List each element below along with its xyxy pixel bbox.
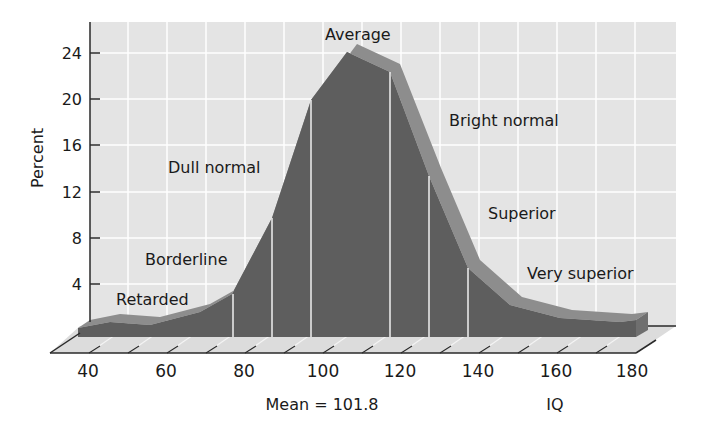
x-tick-label: 140 bbox=[462, 361, 494, 381]
category-label-borderline: Borderline bbox=[145, 250, 228, 269]
y-tick-label: 12 bbox=[62, 183, 82, 202]
x-tick-label: 180 bbox=[616, 361, 648, 381]
iq-distribution-chart: 24 20 16 12 8 4 Percent 40 60 80 100 120… bbox=[0, 0, 705, 440]
category-label-dull-normal: Dull normal bbox=[168, 158, 261, 177]
category-label-average: Average bbox=[325, 25, 391, 44]
mean-annotation: Mean = 101.8 bbox=[266, 395, 379, 414]
category-label-bright-normal: Bright normal bbox=[449, 111, 559, 130]
x-tick-label: 120 bbox=[384, 361, 416, 381]
x-tick-label: 60 bbox=[155, 361, 177, 381]
category-label-very-superior: Very superior bbox=[527, 264, 634, 283]
y-tick-label: 8 bbox=[72, 229, 82, 248]
y-axis-title: Percent bbox=[28, 128, 47, 188]
x-tick-label: 160 bbox=[540, 361, 572, 381]
x-tick-label: 40 bbox=[77, 361, 99, 381]
x-axis-title: IQ bbox=[546, 395, 563, 414]
x-tick-label: 80 bbox=[233, 361, 255, 381]
category-label-retarded: Retarded bbox=[116, 290, 189, 309]
y-tick-label: 4 bbox=[72, 275, 82, 294]
y-tick-label: 24 bbox=[62, 44, 82, 63]
category-label-superior: Superior bbox=[488, 204, 556, 223]
x-tick-label: 100 bbox=[307, 361, 339, 381]
y-tick-label: 20 bbox=[62, 90, 82, 109]
y-tick-label: 16 bbox=[62, 136, 82, 155]
